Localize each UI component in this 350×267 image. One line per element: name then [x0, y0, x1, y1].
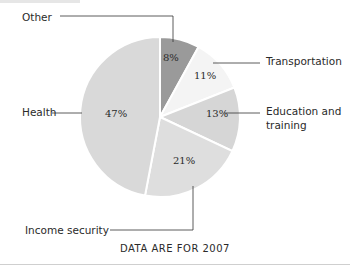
label-health: Health — [22, 106, 56, 119]
label-other: Other — [22, 11, 52, 24]
pct-education: 13% — [206, 108, 228, 119]
footnote: DATA ARE FOR 2007 — [0, 243, 350, 254]
pct-income-security: 21% — [173, 155, 195, 166]
pct-health: 47% — [105, 108, 127, 119]
label-income-security: Income security — [25, 224, 109, 237]
label-education-line1: Education and — [266, 105, 341, 118]
label-transportation: Transportation — [266, 55, 342, 68]
pct-transportation: 11% — [194, 70, 216, 81]
bottom-divider — [0, 264, 350, 265]
pct-other: 8% — [163, 52, 179, 63]
label-education-line2: training — [266, 119, 307, 132]
